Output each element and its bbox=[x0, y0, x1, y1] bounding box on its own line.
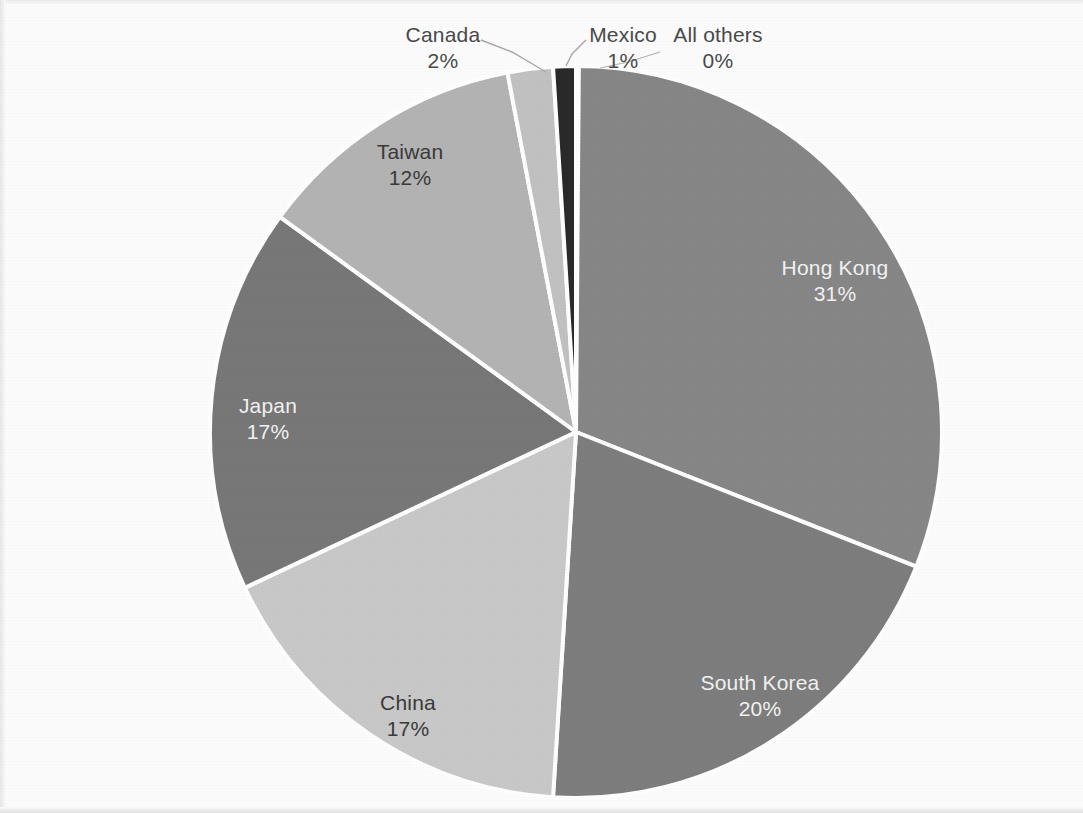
slice-label-name: South Korea bbox=[701, 670, 820, 696]
slice-label-all-others: All others0% bbox=[673, 22, 763, 75]
slice-label-name: Hong Kong bbox=[782, 255, 889, 281]
slice-label-percent: 20% bbox=[701, 696, 820, 722]
slice-label-name: All others bbox=[673, 22, 763, 48]
slice-label-japan: Japan17% bbox=[239, 393, 297, 446]
slice-label-china: China17% bbox=[380, 690, 436, 743]
slice-label-percent: 31% bbox=[782, 281, 889, 307]
pie-slice-group bbox=[210, 66, 942, 798]
leader-line-mexico bbox=[566, 40, 586, 66]
slice-label-percent: 12% bbox=[377, 165, 444, 191]
slice-label-taiwan: Taiwan12% bbox=[377, 139, 444, 192]
slice-label-south-korea: South Korea20% bbox=[701, 670, 820, 723]
slice-label-name: Canada bbox=[406, 22, 481, 48]
slice-label-name: Mexico bbox=[589, 22, 657, 48]
pie-chart-figure: Hong Kong31%South Korea20%China17%Japan1… bbox=[0, 0, 1083, 813]
slice-label-percent: 2% bbox=[406, 48, 481, 74]
slice-label-percent: 17% bbox=[239, 419, 297, 445]
slice-label-percent: 1% bbox=[589, 48, 657, 74]
pie-graphic bbox=[0, 0, 1083, 813]
slice-label-hong-kong: Hong Kong31% bbox=[782, 255, 889, 308]
slice-label-percent: 0% bbox=[673, 48, 763, 74]
slice-label-canada: Canada2% bbox=[406, 22, 481, 75]
slice-label-mexico: Mexico1% bbox=[589, 22, 657, 75]
slice-label-name: Japan bbox=[239, 393, 297, 419]
slice-label-name: Taiwan bbox=[377, 139, 444, 165]
slice-label-percent: 17% bbox=[380, 716, 436, 742]
slice-label-name: China bbox=[380, 690, 436, 716]
